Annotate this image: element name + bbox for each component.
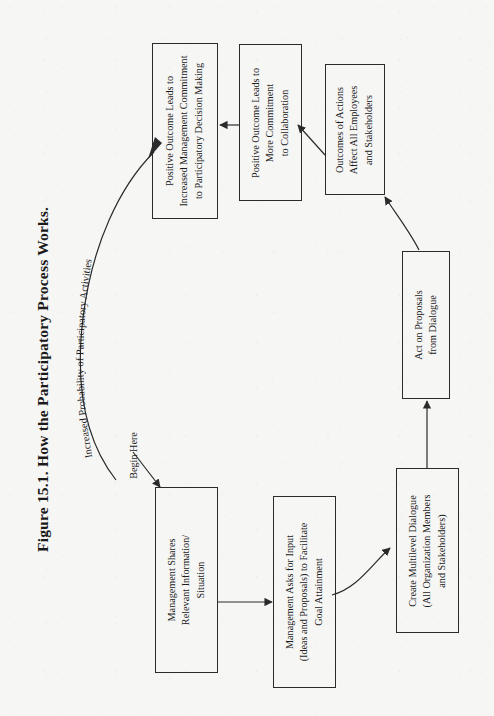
feedback-arc-label-group: Increased Probability of Participatory A… [74, 160, 140, 470]
node-management-asks[interactable]: Management Asks for Input (Ideas and Pro… [273, 496, 336, 688]
line-1: Management Shares [166, 539, 177, 622]
arrow-act-to-outcomes [385, 197, 419, 250]
feedback-arc-label: Increased Probability of Participatory A… [74, 258, 94, 459]
node-management-asks-text: Management Asks for Input (Ideas and Pro… [283, 523, 326, 662]
line-2: (Ideas and Proposals) to Facilitate [298, 523, 309, 662]
feedback-arc [80, 152, 154, 480]
node-positive-more-commitment[interactable]: Positive Outcome Leads to More Commitmen… [239, 44, 302, 201]
line-1: Positive Outcome Leads to [250, 67, 261, 177]
node-management-shares-text: Management Shares Relevant Information/ … [165, 535, 208, 625]
line-3: to Participatory Decision Making [193, 63, 204, 199]
node-act-on-proposals-text: Act on Proposals from Dialogue [412, 290, 441, 360]
node-positive-increased-commitment-text: Positive Outcome Leads to Increased Mana… [163, 55, 206, 206]
line-3: Situation [195, 562, 206, 599]
line-3: Goal Attainment [313, 558, 324, 626]
begin-here-label: Begin Here [128, 432, 139, 479]
line-2: Increased Management Commitment [179, 55, 190, 206]
line-1: Positive Outcome Leads to [164, 76, 175, 186]
line-3: and Stakeholders) [436, 514, 447, 587]
node-create-dialogue-text: Create Multilevel Dialogue (All Organiza… [406, 494, 449, 607]
line-1: Act on Proposals [413, 290, 424, 360]
line-3: to Collaboration [279, 89, 290, 156]
node-positive-more-commitment-text: Positive Outcome Leads to More Commitmen… [249, 67, 292, 177]
node-outcomes-affect-text: Outcomes of Actions Affect All Employees… [333, 85, 376, 174]
line-1: Create Multilevel Dialogue [407, 495, 418, 606]
figure-canvas: Figure 15.1. How the Participatory Proce… [0, 0, 494, 716]
line-1: Management Asks for Input [284, 535, 295, 649]
node-create-dialogue[interactable]: Create Multilevel Dialogue (All Organiza… [396, 468, 459, 633]
node-management-shares[interactable]: Management Shares Relevant Information/ … [155, 487, 218, 673]
node-outcomes-affect[interactable]: Outcomes of Actions Affect All Employees… [325, 64, 385, 195]
line-1: Outcomes of Actions [334, 86, 345, 172]
node-act-on-proposals[interactable]: Act on Proposals from Dialogue [402, 251, 450, 399]
node-positive-increased-commitment[interactable]: Positive Outcome Leads to Increased Mana… [152, 43, 218, 219]
line-2: from Dialogue [427, 295, 438, 355]
line-2: Relevant Information/ [180, 535, 191, 625]
line-3: and Stakeholders [363, 95, 374, 165]
line-2: Affect All Employees [349, 85, 360, 174]
figure-title: Figure 15.1. How the Participatory Proce… [34, 207, 52, 552]
line-2: More Commitment [264, 83, 275, 161]
arrow-outcomes-to-more-commitment [298, 125, 325, 155]
line-2: (All Organization Members [421, 494, 432, 607]
arrow-asks-to-dialogue [332, 548, 390, 595]
